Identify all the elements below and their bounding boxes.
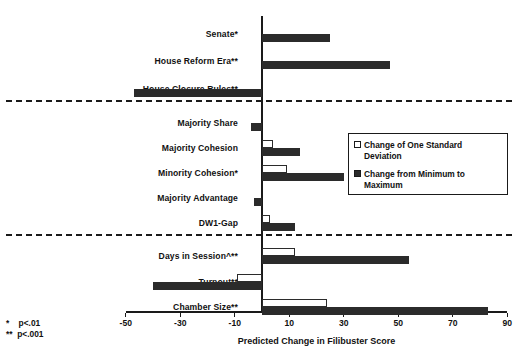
category-label: Days in Session^** [0,251,238,261]
legend-label: Change of One Standard Deviation [364,140,462,161]
footnote-p001: ** p<.001 [6,329,43,340]
bar-minimum-to-maximum [262,173,344,181]
x-axis-tick [180,313,181,317]
legend-swatch-hollow-icon [354,141,361,148]
category-label: Majority Share [0,118,238,128]
bar-one-standard-deviation [262,165,287,173]
x-axis-tick [234,313,235,317]
bar-one-standard-deviation [237,274,262,282]
legend-swatch-filled-icon [354,170,361,177]
x-axis-tick-label: -30 [174,318,186,328]
category-label: House Reform Era** [0,56,238,66]
category-label: Majority Advantage [0,193,238,203]
significance-footnotes: * p<.01** p<.001 [6,318,43,340]
bar-minimum-to-maximum [262,34,330,42]
category-label: Senate* [0,29,238,39]
bar-one-standard-deviation [262,140,273,148]
x-axis-tick [125,313,126,317]
x-axis-tick-label: -10 [229,318,241,328]
bar-minimum-to-maximum [254,198,262,206]
x-axis-title: Predicted Change in Filibuster Score [238,336,396,346]
bar-minimum-to-maximum [262,307,488,315]
category-label: Chamber Size** [0,302,238,312]
category-label: DW1-Gap [0,218,238,228]
legend-item[interactable]: Change from Minimum to Maximum [354,169,504,190]
bar-minimum-to-maximum [262,256,409,264]
bar-one-standard-deviation [262,215,270,223]
footnote-p01: * p<.01 [6,318,43,329]
category-label: Minority Cohesion* [0,168,238,178]
group-separator [6,234,512,236]
legend-item[interactable]: Change of One Standard Deviation [354,140,504,161]
bar-minimum-to-maximum [134,89,262,97]
x-axis-tick-label: 10 [284,318,294,328]
bar-minimum-to-maximum [251,123,262,131]
x-axis-tick-label: 50 [393,318,403,328]
bar-minimum-to-maximum [153,282,262,290]
x-axis-tick [507,313,508,317]
plot-area: -50-30-101030507090Predicted Change in F… [0,0,518,360]
bar-one-standard-deviation [262,299,327,307]
x-axis-tick-label: 90 [502,318,512,328]
x-axis-tick-label: -50 [120,318,132,328]
bar-minimum-to-maximum [262,223,295,231]
x-axis-tick-label: 70 [448,318,458,328]
bar-minimum-to-maximum [262,61,390,69]
filibuster-score-chart: -50-30-101030507090Predicted Change in F… [0,0,518,360]
category-label: Majority Cohesion [0,143,238,153]
bar-one-standard-deviation [262,248,295,256]
bar-minimum-to-maximum [262,148,300,156]
group-separator [6,100,512,102]
legend-label: Change from Minimum to Maximum [364,169,465,190]
x-axis-tick-label: 30 [339,318,349,328]
